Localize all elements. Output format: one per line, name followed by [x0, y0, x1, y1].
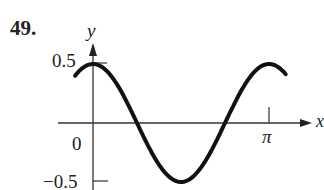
y-axis-arrow-icon [89, 43, 97, 56]
tick-label-0: 0 [72, 133, 82, 155]
x-axis-arrow-icon [300, 119, 312, 127]
x-axis-label: x [316, 111, 324, 132]
problem-number: 49. [10, 16, 36, 41]
tick-label-0.5: 0.5 [52, 50, 76, 72]
tick-label-pi: π [262, 126, 272, 148]
tick-label-neg-0.5: −0.5 [43, 171, 77, 190]
y-axis-label: y [87, 20, 95, 42]
plot-area [0, 0, 324, 190]
